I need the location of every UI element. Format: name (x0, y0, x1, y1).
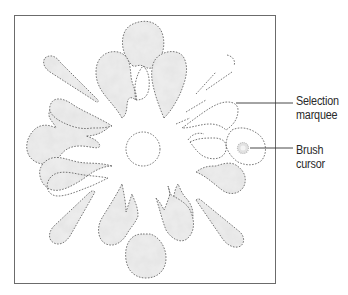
callout-label-selection-marquee: Selection marquee (296, 94, 339, 122)
callout-label-line: Brush (296, 143, 325, 157)
callout-label-brush-cursor: Brush cursor (296, 143, 325, 171)
brush-cursor-icon (238, 143, 249, 154)
petal-bottom (126, 234, 166, 278)
center-circle-marquee (126, 132, 160, 166)
callout-label-line: cursor (296, 157, 325, 171)
callout-label-line: marquee (296, 108, 339, 122)
callout-label-line: Selection (296, 94, 339, 108)
